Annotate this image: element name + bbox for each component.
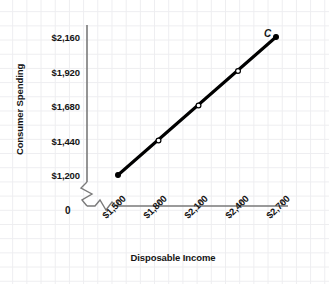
y-tick-label: $2,160 [22, 32, 80, 43]
y-tick-label: $1,440 [22, 136, 80, 147]
y-tick-label: $1,200 [22, 170, 80, 181]
y-tick-label: $1,680 [22, 101, 80, 112]
curve-label-c: C [264, 28, 271, 39]
y-tick-label: $1,920 [22, 67, 80, 78]
x-axis-title: Disposable Income [103, 252, 243, 263]
origin-label: 0 [65, 205, 70, 216]
chart-container: $2,160 $1,920 $1,680 $1,440 $1,200 $1,50… [0, 0, 329, 284]
plot-area: $2,160 $1,920 $1,680 $1,440 $1,200 $1,50… [0, 0, 329, 284]
y-axis-title: Consumer Spending [14, 50, 25, 170]
y-axis-break-icon [81, 182, 92, 206]
